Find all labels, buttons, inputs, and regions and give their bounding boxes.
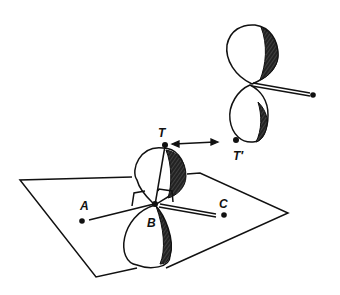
upper-bond-atom <box>310 92 316 98</box>
upper-orbital-top-lobe <box>227 25 278 84</box>
label-b: B <box>147 216 156 230</box>
label-c: C <box>219 197 228 211</box>
bond-b-c <box>159 204 216 217</box>
atom-b <box>152 201 158 207</box>
arrow-t-t-prime <box>172 139 218 147</box>
label-a: A <box>79 199 89 213</box>
orbital-diagram: T T′ A B C <box>0 0 340 295</box>
label-t-prime: T′ <box>233 149 244 163</box>
label-t: T <box>158 126 167 140</box>
point-t-prime <box>233 137 239 143</box>
upper-orbital-bottom-lobe <box>230 85 268 142</box>
atom-a <box>79 218 85 224</box>
lower-orbital-bottom-lobe <box>124 205 172 268</box>
point-t <box>162 142 168 148</box>
atom-c <box>221 212 227 218</box>
